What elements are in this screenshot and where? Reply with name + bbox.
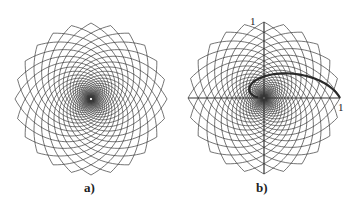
figure-b-label: b) bbox=[256, 180, 268, 196]
spiral-line bbox=[34, 75, 101, 153]
spiral-line bbox=[37, 89, 115, 156]
spiral-line bbox=[81, 75, 148, 153]
spiral-line bbox=[34, 45, 101, 123]
spiral-line bbox=[67, 89, 145, 156]
diagram-canvas bbox=[0, 0, 357, 207]
y-axis-end-label: 1 bbox=[250, 15, 256, 27]
spiral-line bbox=[37, 42, 115, 109]
spiral-line bbox=[67, 42, 145, 109]
x-axis-end-label: 1 bbox=[338, 101, 344, 113]
spiral-line bbox=[81, 45, 148, 123]
figure-a-label: a) bbox=[84, 180, 95, 196]
spiral-figure-a bbox=[15, 23, 167, 175]
